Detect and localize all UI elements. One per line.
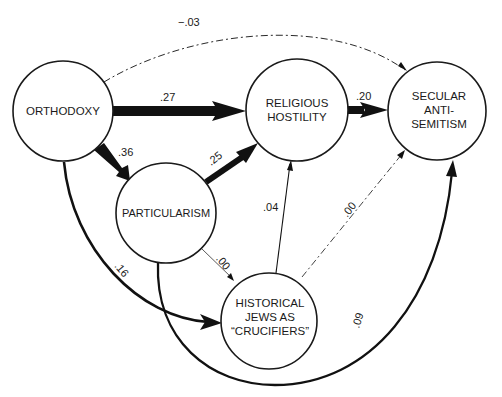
arrowhead-icon [397, 150, 405, 159]
edge-orthodoxy-to-religious-hostility [113, 101, 246, 121]
edge-historical-to-secular [302, 150, 405, 277]
node-particularism: PARTICULARISM [116, 163, 216, 263]
node-secular-antisemitism: SECULAR ANTI- SEMITISM [388, 62, 486, 160]
arrowhead-icon [398, 62, 407, 71]
node-label: “CRUCIFIERS” [231, 325, 309, 337]
coef-orthodoxy-secular: −.03 [178, 16, 200, 28]
node-label: RELIGIOUS [266, 97, 329, 109]
node-label: SECULAR [412, 90, 466, 102]
node-historical-jews: HISTORICAL JEWS AS “CRUCIFIERS” [221, 273, 317, 369]
node-label: ANTI- [424, 104, 454, 116]
arrowhead-icon [360, 102, 388, 118]
path-diagram: −.03 .27 .20 .36 .25 .00 .04 .00 [0, 0, 502, 397]
edge-religious-to-secular [348, 102, 388, 118]
node-religious-hostility: RELIGIOUS HOSTILITY [246, 59, 348, 161]
arrowhead-icon [287, 160, 293, 171]
coef-particularism-religious: .25 [205, 149, 224, 168]
node-label: ORTHODOXY [26, 105, 100, 117]
node-label: HISTORICAL [236, 297, 305, 309]
coef-historical-secular: .00 [339, 200, 358, 219]
node-label: PARTICULARISM [122, 207, 210, 219]
coef-particularism-historical: .00 [214, 253, 233, 272]
edge-orthodoxy-to-secular [104, 35, 407, 82]
coef-orthodoxy-particularism: .36 [118, 146, 133, 158]
arrowhead-icon [446, 160, 457, 177]
coef-historical-religious: .04 [263, 201, 278, 213]
node-orthodoxy: ORTHODOXY [13, 61, 113, 161]
coef-religious-secular: .20 [356, 90, 371, 102]
node-label: JEWS AS [245, 311, 295, 323]
edge-historical-to-religious [276, 160, 293, 273]
coef-particularism-secular: .09 [349, 311, 365, 329]
node-label: SEMITISM [411, 118, 467, 130]
node-label: HOSTILITY [267, 111, 327, 123]
coef-orthodoxy-religious: .27 [160, 91, 175, 103]
